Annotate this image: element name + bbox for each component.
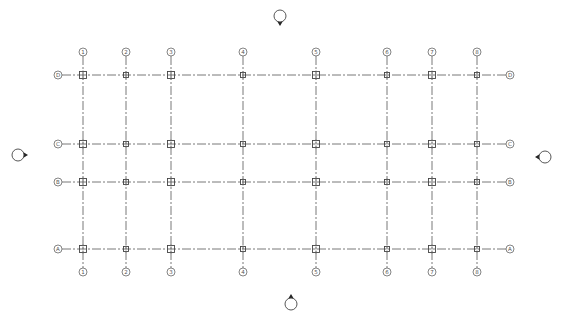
grid-bubble-label: A [56,246,60,252]
grid-bubble-label: 5 [314,49,318,55]
grid-bubble-label: C [56,141,60,147]
grid-bubble-label: 6 [385,269,389,275]
elevation-marker-west[interactable] [12,149,24,161]
grid-bubble-label: 4 [241,49,245,55]
grid-bubble-label: D [508,72,512,78]
grid-bubble-label: 5 [314,269,318,275]
grid-bubble-label: 7 [430,49,434,55]
grid-bubble-label: 1 [81,269,85,275]
drawing-canvas: 1122334455667788DDCCBBAA [0,0,565,325]
grid-plan: 1122334455667788DDCCBBAA [0,0,565,325]
grid-bubble-label: 8 [475,269,479,275]
grid-bubble-label: 6 [385,49,389,55]
grid-bubble-label: 2 [124,49,128,55]
grid-bubble-label: 8 [475,49,479,55]
elevation-marker-north[interactable] [274,10,286,22]
grid-bubble-label: C [508,141,512,147]
grid-bubble-label: 3 [169,49,173,55]
grid-bubble-label: 3 [169,269,173,275]
grid-bubble-label: D [56,72,60,78]
elevation-marker-east[interactable] [539,151,551,163]
grid-bubble-label: B [56,179,60,185]
grid-bubble-label: B [508,179,512,185]
grid-bubble-label: 2 [124,269,128,275]
grid-bubble-label: 4 [241,269,245,275]
grid-bubble-label: 1 [81,49,85,55]
grid-bubble-label: 7 [430,269,434,275]
elevation-marker-south[interactable] [285,298,297,310]
grid-bubble-label: A [508,246,512,252]
